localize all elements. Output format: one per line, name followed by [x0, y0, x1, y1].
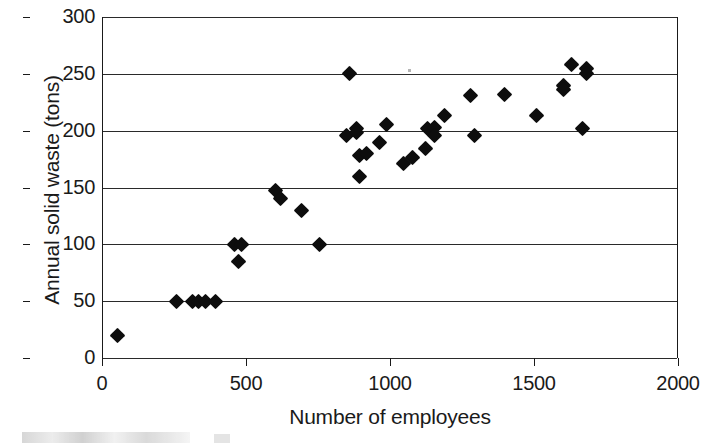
y-tick-mark	[23, 131, 30, 132]
x-axis-title: Number of employees	[102, 405, 678, 429]
y-tick-mark	[23, 188, 30, 189]
data-point	[311, 237, 327, 253]
data-point	[208, 293, 224, 309]
y-tick-mark	[23, 244, 30, 245]
gridline-y	[103, 17, 677, 18]
data-point	[497, 87, 513, 103]
data-point	[563, 57, 579, 73]
data-point	[110, 327, 126, 343]
x-tick-label: 2000	[638, 372, 718, 394]
data-point	[341, 66, 357, 82]
scan-speck	[408, 69, 411, 72]
y-tick-mark	[23, 301, 30, 302]
scatter-plot-figure: 050100150200250300 0500100015002000 Annu…	[0, 0, 720, 447]
data-point	[575, 121, 591, 137]
plot-area	[102, 17, 678, 358]
gridline-y	[103, 131, 677, 132]
data-point	[372, 134, 388, 150]
x-tick-label: 1500	[494, 372, 574, 394]
x-tick-mark	[102, 358, 103, 366]
data-point	[231, 254, 247, 270]
data-point	[169, 293, 185, 309]
x-tick-mark	[534, 358, 535, 366]
y-tick-mark	[23, 17, 30, 18]
data-point	[529, 108, 545, 124]
x-tick-mark	[678, 358, 679, 366]
scan-artifact	[22, 432, 190, 443]
x-axis-ticks: 0500100015002000	[102, 358, 678, 408]
x-tick-label: 1000	[350, 372, 430, 394]
y-tick-mark	[23, 358, 30, 359]
gridline-y	[103, 244, 677, 245]
data-point	[462, 88, 478, 104]
x-tick-label: 0	[62, 372, 142, 394]
scan-artifact-secondary	[214, 434, 230, 443]
x-tick-mark	[246, 358, 247, 366]
data-point	[418, 141, 434, 157]
data-point	[294, 202, 310, 218]
data-point	[352, 168, 368, 184]
y-axis-title: Annual solid waste (tons)	[40, 20, 64, 360]
data-point	[436, 108, 452, 124]
y-tick-mark	[23, 74, 30, 75]
gridline-y	[103, 188, 677, 189]
x-tick-mark	[390, 358, 391, 366]
x-tick-label: 500	[206, 372, 286, 394]
